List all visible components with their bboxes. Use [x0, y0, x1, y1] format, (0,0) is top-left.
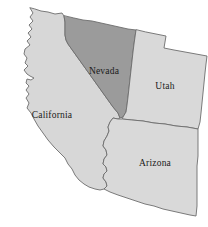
region-label-nevada: Nevada — [89, 66, 120, 76]
map-figure: California Nevada Utah Arizona — [0, 0, 208, 227]
map-svg: California Nevada Utah Arizona — [0, 0, 208, 227]
region-label-utah: Utah — [155, 81, 174, 91]
region-label-arizona: Arizona — [139, 158, 172, 168]
region-utah[interactable] — [122, 30, 207, 129]
region-label-california: California — [32, 110, 73, 120]
